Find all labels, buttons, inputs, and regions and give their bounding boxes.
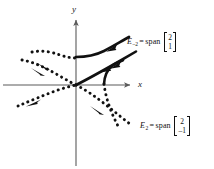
- solid-trajectory-lower: [104, 60, 123, 84]
- eigenspace-stable-span-word: span: [145, 38, 160, 46]
- vector-entry-0: 2: [168, 33, 172, 42]
- x-axis-label: x: [138, 80, 142, 89]
- dotted-trajectories-group: [18, 51, 130, 126]
- vector-entry-0: 2: [180, 117, 184, 126]
- phase-portrait-figure: x y E–2 = span 2 1 E2 = span 2 –1: [0, 0, 214, 169]
- phase-portrait-canvas: [0, 0, 214, 169]
- axes-group: [3, 20, 130, 166]
- eigenspace-unstable-equals: =: [148, 122, 156, 130]
- eigenspace-stable-subscript: –2: [133, 42, 138, 48]
- eigenspace-stable-name: E: [127, 38, 132, 46]
- vector-entry-1: –1: [178, 126, 186, 135]
- dotted-trajectory-left: [22, 60, 76, 85]
- dotted-trajectory-right: [104, 84, 118, 126]
- vector-entry-1: 1: [168, 42, 172, 51]
- eigenspace-unstable-subscript: 2: [146, 126, 149, 132]
- eigenspace-stable-equals: =: [138, 38, 146, 46]
- dotted-trajectory-lower-left: [18, 85, 76, 106]
- vector-entries: 2 –1: [177, 116, 187, 137]
- eigenspace-stable-vector: 2 1: [164, 32, 176, 53]
- solid-trajectory-upper: [76, 37, 129, 57]
- dotted-arrowheads-group: [26, 63, 104, 116]
- eigenspace-unstable-span-word: span: [156, 122, 171, 130]
- eigenspace-unstable-vector: 2 –1: [174, 116, 190, 137]
- eigenspace-label-unstable: E2 = span 2 –1: [140, 116, 190, 137]
- eigenspace-unstable-name: E: [140, 122, 145, 130]
- dotted-arrowhead-lower-right: [90, 106, 104, 115]
- y-axis-label: y: [72, 5, 76, 14]
- vector-bracket-right: [187, 116, 190, 137]
- dotted-arrowhead-left: [31, 68, 45, 76]
- dotted-trajectory-upper-left: [32, 51, 76, 58]
- eigenspace-label-stable: E–2 = span 2 1: [127, 32, 176, 53]
- vector-bracket-right: [173, 32, 176, 53]
- dotted-trajectory-lower-right: [76, 85, 130, 124]
